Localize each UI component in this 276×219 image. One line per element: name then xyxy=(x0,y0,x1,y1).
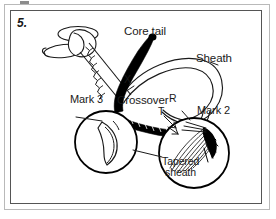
circle-connector-line xyxy=(133,150,162,157)
mark3-detail-circle xyxy=(75,111,137,173)
label-core-tail: Core tail xyxy=(124,26,166,38)
label-tapered-sheath-line2: sheath xyxy=(165,167,196,178)
figure-page: 5. Core tail Sheath X Mark 3 Crossover R… xyxy=(0,0,276,219)
label-mark-3: Mark 3 xyxy=(70,94,103,105)
label-point-r: R xyxy=(169,93,176,104)
label-sheath: Sheath xyxy=(196,53,232,65)
label-point-t: T xyxy=(158,106,164,117)
label-mark-2: Mark 2 xyxy=(197,105,230,116)
label-point-x: X xyxy=(124,74,131,85)
braid-cross-ticks xyxy=(90,48,106,96)
step-number: 5. xyxy=(17,16,27,30)
